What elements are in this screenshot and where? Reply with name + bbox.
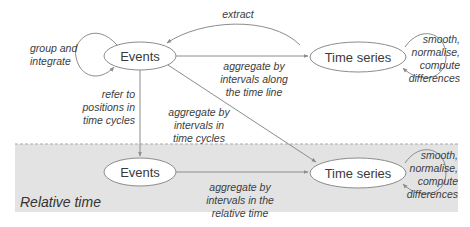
- label-aggregate-cycles: aggregate by intervals in time cycles: [160, 106, 238, 145]
- label-aggregate-timeline: aggregate by intervals along the time li…: [208, 60, 300, 99]
- label-extract: extract: [213, 8, 263, 21]
- node-events-bottom-label: Events: [120, 165, 160, 180]
- label-smooth-top: smooth, normalise, compute differences: [400, 33, 460, 85]
- node-events-top-label: Events: [120, 49, 160, 64]
- edge-extract: [167, 24, 300, 45]
- diagram-canvas: Events Time series Events Time series gr…: [0, 0, 470, 227]
- node-timeseries-top-label: Time series: [325, 50, 392, 65]
- label-aggregate-relative: aggregate by intervals in the relative t…: [192, 181, 288, 220]
- label-refer-positions: refer to positions in time cycles: [70, 88, 135, 127]
- node-timeseries-bottom-label: Time series: [325, 166, 392, 181]
- label-smooth-bottom: smooth, normalise, compute differences: [398, 149, 458, 201]
- relative-time-label: Relative time: [20, 194, 101, 210]
- label-group-integrate: group and integrate: [30, 42, 77, 68]
